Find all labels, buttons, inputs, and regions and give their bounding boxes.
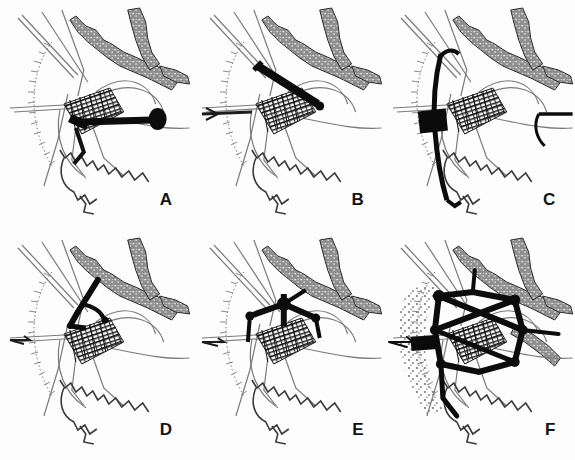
serrated-wall bbox=[251, 380, 340, 444]
panel-label-e: E bbox=[352, 421, 364, 438]
hachure-escarpment bbox=[28, 42, 55, 166]
river-band bbox=[453, 8, 573, 90]
serrated-wall bbox=[60, 150, 149, 214]
river-band bbox=[70, 8, 190, 90]
panel-c[interactable]: C bbox=[383, 0, 575, 230]
node-marker bbox=[149, 108, 167, 130]
panel-label-b: B bbox=[351, 191, 364, 208]
panel-a[interactable]: A bbox=[0, 0, 192, 230]
panel-b[interactable]: B bbox=[192, 0, 384, 230]
serrated-wall bbox=[60, 380, 149, 444]
junction-node bbox=[430, 325, 440, 335]
panel-label-f: F bbox=[545, 421, 556, 438]
junction-node bbox=[433, 290, 445, 302]
hachure-escarpment bbox=[28, 272, 55, 396]
panel-label-d: D bbox=[160, 421, 173, 438]
panel-label-c: C bbox=[543, 191, 556, 208]
panel-e[interactable]: E bbox=[192, 230, 384, 460]
junction-node bbox=[276, 297, 290, 311]
panel-f[interactable]: F bbox=[383, 230, 575, 460]
historic-grid-core bbox=[447, 88, 507, 134]
panel-label-a: A bbox=[160, 191, 173, 208]
junction-node bbox=[518, 325, 528, 335]
hachure-escarpment bbox=[220, 42, 247, 166]
river-band bbox=[70, 238, 190, 320]
hachure-escarpment bbox=[220, 272, 247, 396]
junction-node bbox=[510, 357, 520, 367]
figure-root: A bbox=[0, 0, 575, 460]
serrated-wall bbox=[251, 150, 340, 214]
historic-grid-core bbox=[64, 88, 124, 134]
junction-node bbox=[436, 359, 446, 369]
junction-node bbox=[509, 295, 520, 306]
panel-d[interactable]: D bbox=[0, 230, 192, 460]
